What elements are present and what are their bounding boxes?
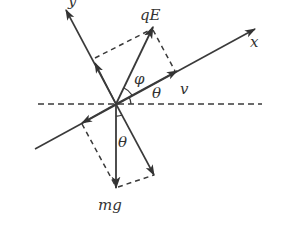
angle-phi-arc bbox=[124, 88, 132, 95]
mg-label: mg bbox=[98, 196, 122, 214]
phi-label: φ bbox=[134, 70, 145, 88]
mg-dashed-to-x bbox=[82, 124, 115, 185]
x-axis-label: x bbox=[250, 33, 259, 51]
force-diagram: y qE x φ θ v θ mg bbox=[0, 0, 284, 228]
mg-x-component-arrow bbox=[82, 104, 116, 123]
theta-label-lower: θ bbox=[118, 133, 127, 151]
qE-dashed-to-y bbox=[95, 29, 152, 58]
mg-dashed-to-y bbox=[118, 175, 154, 187]
qE-dashed-to-x bbox=[153, 30, 175, 71]
qE-vector bbox=[116, 27, 153, 104]
y-axis-label: y bbox=[67, 0, 77, 10]
theta-label-upper: θ bbox=[152, 84, 161, 102]
qE-label: qE bbox=[140, 6, 161, 24]
v-label: v bbox=[180, 80, 189, 98]
qE-y-component-arrow bbox=[95, 63, 116, 104]
v-vector bbox=[116, 71, 177, 104]
angle-theta-arc-upper bbox=[129, 97, 131, 104]
